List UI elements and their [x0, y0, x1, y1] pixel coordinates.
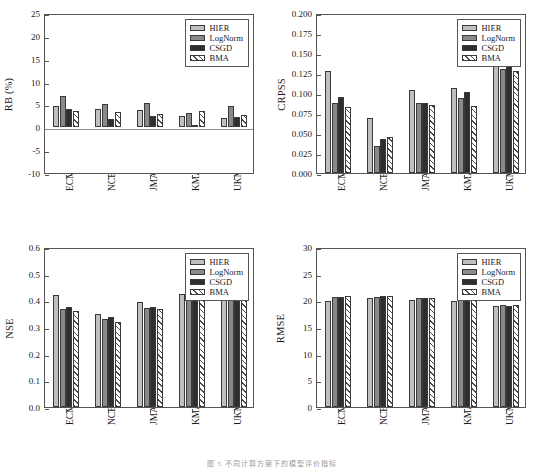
bar-lognorm-ecmwf	[332, 103, 338, 173]
bar-hier-kma	[179, 116, 185, 127]
bar-bma-ncep	[387, 296, 393, 407]
legend-label: LogNorm	[209, 33, 243, 43]
y-axis-tick-label: 10	[303, 350, 316, 360]
legend-swatch-csgd-icon	[190, 279, 205, 285]
y-axis-tick-label: 0.6	[29, 243, 44, 253]
bar-lognorm-kma	[458, 300, 464, 407]
legend-item-lognorm: LogNorm	[190, 33, 243, 43]
x-axis-tick-mark	[192, 175, 193, 179]
y-axis-tick-label: 5	[308, 376, 317, 386]
y-axis-tick-label: 0.050	[292, 129, 316, 139]
bar-bma-kma	[199, 111, 205, 127]
bar-hier-kma	[451, 88, 457, 173]
y-axis-tick-mark	[317, 276, 321, 277]
plot-area: HIERLogNormCSGDBMA	[44, 14, 254, 174]
y-axis-tick-label: 30	[303, 243, 316, 253]
y-axis-tick-mark	[317, 302, 321, 303]
bar-bma-ecmwf	[345, 107, 351, 173]
bar-bma-ukmo	[241, 115, 247, 127]
y-axis-tick-mark	[317, 155, 321, 156]
y-axis-tick-label: 0.175	[292, 29, 316, 39]
y-axis-label: NSE	[2, 248, 16, 408]
bar-bma-ukmo	[513, 305, 519, 407]
legend-label: HIER	[209, 257, 229, 267]
x-axis-tick-label-text: JMA	[421, 411, 431, 425]
x-axis-tick-label: ECMWF	[58, 180, 72, 194]
bar-hier-ncep	[367, 298, 373, 407]
y-axis-label: CRPSS	[274, 14, 288, 174]
y-axis-tick-mark	[317, 356, 321, 357]
bar-lognorm-ncep	[102, 319, 108, 407]
bar-bma-kma	[471, 106, 477, 173]
bar-bma-ukmo	[241, 290, 247, 407]
y-axis-tick-label: 0.5	[29, 270, 44, 280]
legend-label: LogNorm	[209, 267, 243, 277]
x-axis-tick-label: UKMO	[498, 414, 512, 428]
x-axis-tick-label-text: JMA	[421, 177, 431, 191]
bar-bma-jma	[429, 298, 435, 407]
bar-csgd-ecmwf	[338, 97, 344, 173]
bar-lognorm-ecmwf	[60, 96, 66, 128]
bar-lognorm-jma	[144, 103, 150, 128]
x-axis-tick-label-text: UKMO	[505, 411, 515, 425]
bar-hier-ecmwf	[325, 71, 331, 173]
y-axis-tick-label: 0.150	[292, 49, 316, 59]
y-axis-label-text: CRPSS	[276, 78, 287, 111]
bar-hier-kma	[179, 294, 185, 407]
x-axis-tick-label: JMA	[142, 180, 156, 194]
y-axis-tick-mark	[317, 135, 321, 136]
y-axis-tick-mark	[45, 382, 49, 383]
y-axis-tick-mark	[45, 38, 49, 39]
bar-csgd-ukmo	[234, 117, 240, 127]
legend-item-hier: HIER	[190, 23, 243, 33]
y-axis-tick-label: 25	[31, 9, 44, 19]
y-axis-tick-mark	[317, 15, 321, 16]
bar-lognorm-ncep	[102, 104, 108, 127]
y-axis-tick-mark	[317, 175, 321, 176]
x-axis-tick-label: KMA	[184, 180, 198, 194]
bar-hier-jma	[137, 110, 143, 127]
x-axis-tick-mark	[506, 175, 507, 179]
legend-item-lognorm: LogNorm	[462, 267, 515, 277]
chart-panel-rb: RB (%)-10-50510152025ECMWFNCEPJMAKMAUKMO…	[0, 0, 272, 234]
bar-lognorm-ukmo	[228, 287, 234, 407]
bar-csgd-jma	[422, 103, 428, 173]
bar-lognorm-jma	[416, 298, 422, 407]
y-axis-tick-mark	[317, 382, 321, 383]
x-axis-tick-label-text: NCEP	[379, 411, 389, 425]
y-axis-tick-mark	[45, 84, 49, 85]
x-axis-tick-label-text: UKMO	[505, 177, 515, 191]
x-axis-tick-mark	[422, 409, 423, 413]
x-axis-tick-label: NCEP	[372, 414, 386, 428]
x-axis-tick-mark	[380, 175, 381, 179]
bar-csgd-ncep	[108, 317, 114, 407]
bar-csgd-ncep	[108, 119, 114, 127]
y-axis-tick-label: 0.2	[29, 350, 44, 360]
y-axis-tick-label: 0.0	[29, 403, 44, 413]
bar-bma-jma	[429, 105, 435, 173]
x-axis-tick-label: JMA	[414, 180, 428, 194]
bar-csgd-jma	[150, 116, 156, 127]
bar-lognorm-ncep	[374, 146, 380, 173]
legend-item-hier: HIER	[462, 23, 515, 33]
y-axis-tick-label: 0	[36, 123, 45, 133]
legend-label: HIER	[481, 23, 501, 33]
legend-swatch-csgd-icon	[462, 45, 477, 51]
bar-hier-jma	[137, 302, 143, 407]
y-axis-tick-label: 15	[31, 55, 44, 65]
bar-csgd-kma	[192, 296, 198, 407]
x-axis-tick-mark	[108, 409, 109, 413]
bar-bma-ncep	[115, 112, 121, 127]
y-axis-tick-label: 0	[308, 403, 317, 413]
legend-swatch-hier-icon	[462, 25, 477, 31]
bar-lognorm-jma	[144, 308, 150, 407]
legend-swatch-bma-icon	[462, 289, 477, 295]
legend-swatch-hier-icon	[190, 25, 205, 31]
legend-label: CSGD	[481, 277, 504, 287]
x-axis-tick-label-text: KMA	[463, 177, 473, 191]
legend-item-lognorm: LogNorm	[190, 267, 243, 277]
y-axis-tick-label: -10	[28, 169, 44, 179]
legend-item-hier: HIER	[462, 257, 515, 267]
legend-swatch-bma-icon	[190, 55, 205, 61]
y-axis-label-text: RB (%)	[4, 77, 15, 111]
